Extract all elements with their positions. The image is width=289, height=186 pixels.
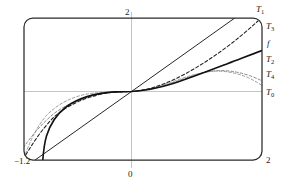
- taylor-polynomial-figure: 2 −1.2 0 2 T1 T3 f T2 T4 T0: [0, 0, 289, 186]
- tick-label-origin-0: 0: [128, 170, 133, 179]
- curve-label-T1: T1: [256, 5, 264, 14]
- tick-label-bottom-right: 2: [266, 156, 271, 165]
- plot-frame: [24, 18, 262, 160]
- tick-label-top-2: 2: [125, 8, 130, 17]
- curve-label-T4: T4: [266, 70, 274, 79]
- curve-label-T0: T0: [266, 88, 274, 97]
- plot-canvas: [0, 0, 289, 186]
- curve-label-f: f: [267, 39, 270, 48]
- tick-label-bottom-left: −1.2: [14, 157, 30, 166]
- curve-T2: [18, 71, 270, 156]
- curve-label-T3: T3: [266, 22, 274, 31]
- curve-T1: [14, 0, 272, 175]
- curve-f: [42, 51, 262, 178]
- curve-label-T2: T2: [266, 55, 274, 64]
